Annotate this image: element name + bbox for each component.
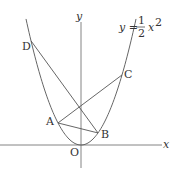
equation-exponent: 2 [155,16,162,29]
point-b-label: B [101,128,109,141]
point-d-label: D [22,40,31,53]
origin-label: O [70,146,79,159]
curve-equation: y = 1 2 x 2 [118,14,162,40]
x-axis-label: x [163,138,170,151]
fraction-denominator: 2 [138,27,145,40]
equation-variable: x [148,21,155,34]
segment-db [31,41,98,133]
fraction-numerator: 1 [138,14,145,27]
segment-ac [58,75,122,123]
diagram-canvas: x y O A B C D y = 1 2 x 2 [0,0,178,170]
equation-lhs: y = [118,21,138,34]
point-a-label: A [45,115,55,128]
y-axis-label: y [75,10,83,23]
point-c-label: C [124,68,132,81]
